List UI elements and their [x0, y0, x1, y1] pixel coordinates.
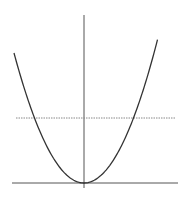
parabola-curve — [14, 40, 158, 183]
parabola-diagram — [0, 0, 186, 199]
